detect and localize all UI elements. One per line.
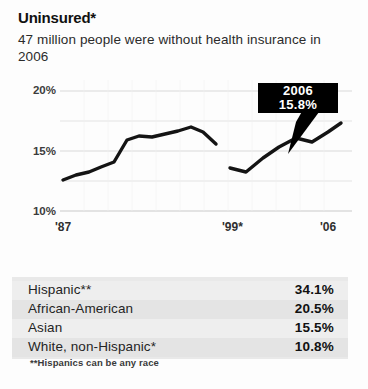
table-row-label: Asian — [28, 320, 62, 335]
table-footnote: **Hispanics can be any race — [30, 357, 159, 368]
x-axis-tick-06: '06 — [320, 220, 336, 234]
x-axis-tick-99: '99* — [222, 220, 243, 234]
table-row-value: 20.5% — [295, 301, 334, 316]
infographic-page: Uninsured* 47 million people were withou… — [0, 0, 368, 389]
table-row-value: 15.5% — [295, 320, 334, 335]
table-row: Asian 15.5% — [12, 319, 348, 338]
series-line-1987-1999 — [63, 127, 216, 180]
table-row-label: African-American — [28, 301, 133, 316]
table-row: African-American 20.5% — [12, 300, 348, 319]
line-chart: 20% 15% 10% '87 '99* '06 — [0, 80, 368, 245]
callout-year: 2006 — [283, 84, 313, 98]
data-callout-2006: 2006 15.8% — [258, 83, 338, 113]
table-row-label: Hispanic** — [28, 282, 91, 297]
y-axis-tick-15: 15% — [14, 145, 56, 157]
table-row-value: 10.8% — [295, 339, 334, 354]
table-row-value: 34.1% — [295, 282, 334, 297]
table-row: White, non-Hispanic* 10.8% — [12, 338, 348, 357]
y-axis-tick-20: 20% — [14, 84, 56, 96]
page-subtitle: 47 million people were without health in… — [18, 31, 338, 66]
callout-value: 15.8% — [279, 98, 317, 112]
page-title: Uninsured* — [18, 10, 338, 27]
x-axis-tick-87: '87 — [55, 220, 71, 234]
table-row-label: White, non-Hispanic* — [28, 339, 156, 354]
table-row: Hispanic** 34.1% — [12, 281, 348, 300]
y-axis-tick-10: 10% — [14, 205, 56, 217]
callout-arrow-icon — [258, 108, 344, 156]
header: Uninsured* 47 million people were withou… — [18, 10, 338, 65]
demographic-table: Hispanic** 34.1% African-American 20.5% … — [12, 277, 348, 359]
